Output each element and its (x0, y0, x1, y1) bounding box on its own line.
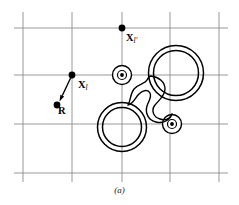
label-subscript: l' (134, 36, 138, 45)
displacement-arrow-shaft (62, 75, 72, 96)
large-annulus-upper-right-outer (149, 46, 204, 101)
small-target-upper-center-dot (120, 73, 124, 77)
position-vectors (54, 25, 126, 109)
label-symbol: X (78, 79, 86, 90)
x-l-point (69, 72, 76, 79)
label-r: R (58, 106, 66, 117)
label-subscript: l (86, 83, 88, 92)
label-symbol: X (126, 32, 134, 43)
displacement-arrow-head (60, 95, 65, 102)
figure-panel-a: Xl' Xl R (a) (0, 0, 239, 205)
label-x-l: Xl (78, 80, 88, 92)
label-x-l-prime: Xl' (126, 33, 137, 45)
figure-caption: (a) (0, 185, 239, 195)
large-annulus-upper-right-inner (154, 51, 199, 96)
small-target-lower-center-dot (170, 122, 174, 126)
label-symbol: R (58, 105, 66, 116)
scatterer-shapes (98, 46, 204, 152)
scattering-diagram (0, 0, 239, 205)
x-l-prime-point (119, 25, 126, 32)
lattice-grid (14, 12, 228, 182)
